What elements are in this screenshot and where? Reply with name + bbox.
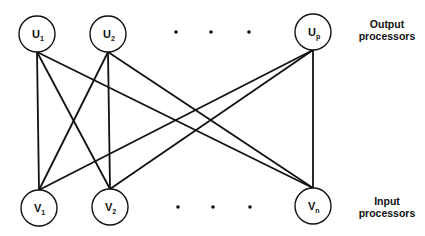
- ellipsis-dot: [209, 30, 213, 34]
- input-label-line1: Input: [352, 195, 422, 207]
- node-v1: V1: [21, 190, 57, 226]
- node-up: Up: [295, 14, 331, 50]
- node-u2: U2: [90, 16, 126, 52]
- node-vn: Vn: [295, 188, 331, 224]
- ellipsis-dot: [248, 205, 252, 209]
- node-v2: V2: [92, 189, 128, 225]
- ellipsis-dot: [247, 30, 251, 34]
- output-label-line2: processors: [352, 30, 422, 42]
- ellipsis-dot: [176, 205, 180, 209]
- output-label-line1: Output: [352, 18, 422, 30]
- edge-u2-v2: [108, 52, 110, 189]
- input-layer-label: Input processors: [352, 195, 422, 219]
- edge-u1-v1: [37, 52, 39, 190]
- ellipsis-dot: [211, 205, 215, 209]
- edge-u2-v1: [39, 52, 108, 190]
- node-u1: U1: [19, 16, 55, 52]
- output-layer-label: Output processors: [352, 18, 422, 42]
- input-label-line2: processors: [352, 207, 422, 219]
- ellipsis-dot: [174, 30, 178, 34]
- edge-up-v1: [39, 50, 313, 190]
- edges-group: [37, 50, 313, 190]
